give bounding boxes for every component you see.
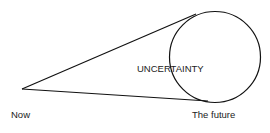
lower-cone-edge: [22, 89, 208, 101]
now-label: Now: [11, 109, 30, 120]
uncertainty-label: UNCERTAINTY: [137, 63, 204, 74]
future-label: The future: [192, 109, 235, 120]
uncertainty-cone-diagram: UNCERTAINTY Now The future: [0, 0, 270, 133]
uncertainty-circle: [170, 12, 261, 103]
